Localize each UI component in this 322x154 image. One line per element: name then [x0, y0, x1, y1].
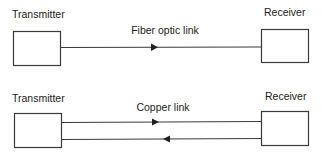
copper-link-diagram: Transmitter Receiver Copper link [12, 90, 309, 148]
receiver-label: Receiver [264, 6, 306, 18]
transmitter-box [14, 32, 61, 66]
copper-line-return [62, 139, 262, 140]
receiver-label: Receiver [265, 90, 307, 102]
receiver-box [262, 112, 309, 146]
transmitter-box [15, 114, 62, 148]
transmitter-label: Transmitter [12, 92, 65, 104]
link-diagram: Transmitter Receiver Fiber optic link Tr… [0, 0, 322, 154]
arrow-right-icon [152, 119, 159, 126]
link-label: Fiber optic link [131, 24, 199, 36]
link-label: Copper link [136, 101, 190, 113]
transmitter-label: Transmitter [12, 8, 65, 20]
receiver-box [262, 30, 309, 63]
copper-line-forward [62, 122, 262, 123]
fiber-optic-diagram: Transmitter Receiver Fiber optic link [12, 6, 309, 66]
arrow-right-icon [151, 44, 158, 52]
arrow-left-icon [163, 136, 170, 143]
fiber-line [61, 47, 262, 48]
